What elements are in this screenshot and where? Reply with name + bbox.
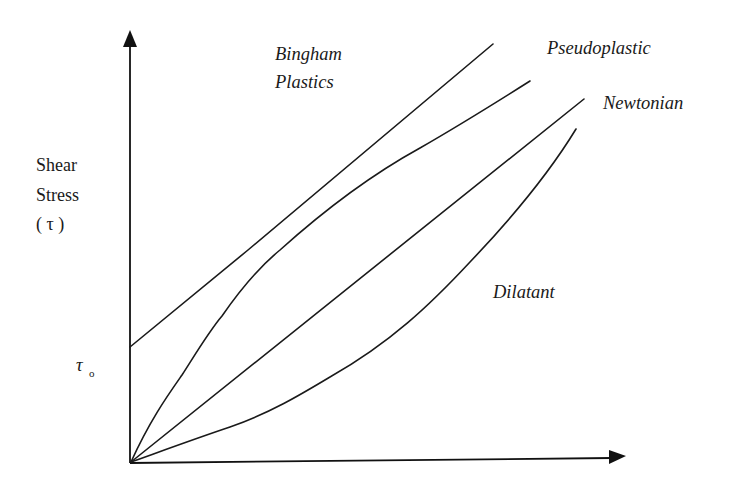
pseudoplastic-label: Pseudoplastic [546,38,652,58]
y-axis-label-line1: Shear [36,155,77,175]
pseudoplastic-curve [131,81,530,462]
dilatant-label: Dilatant [492,282,556,302]
tau-symbol: τ [76,355,84,375]
yield-stress-label: τ [76,355,84,375]
x-axis [130,458,612,463]
y-axis-label-line2: Stress [36,185,79,205]
bingham-label-line1: Bingham [275,44,342,64]
rheology-diagram: Shear Stress ( τ ) τ o Bingham Plastics … [0,0,742,487]
y-axis-arrow-icon [123,30,137,47]
newtonian-label: Newtonian [602,93,683,113]
newtonian-curve [131,99,584,462]
bingham-label-line2: Plastics [274,72,334,92]
yield-stress-subscript: o [89,367,95,379]
y-axis-label-line3: ( τ ) [36,214,64,235]
x-axis-arrow-icon [609,450,626,464]
